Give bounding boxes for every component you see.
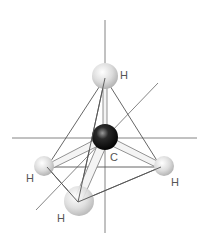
atom-h-top: H	[92, 63, 128, 89]
h-top-label: H	[120, 69, 128, 81]
methane-diagram: H H H C H	[0, 0, 211, 246]
h-front-label: H	[57, 212, 65, 224]
h-right-label: H	[171, 176, 179, 188]
carbon-label: C	[110, 151, 118, 163]
atom-h-right: H	[154, 156, 179, 188]
h-left-label: H	[26, 172, 34, 184]
